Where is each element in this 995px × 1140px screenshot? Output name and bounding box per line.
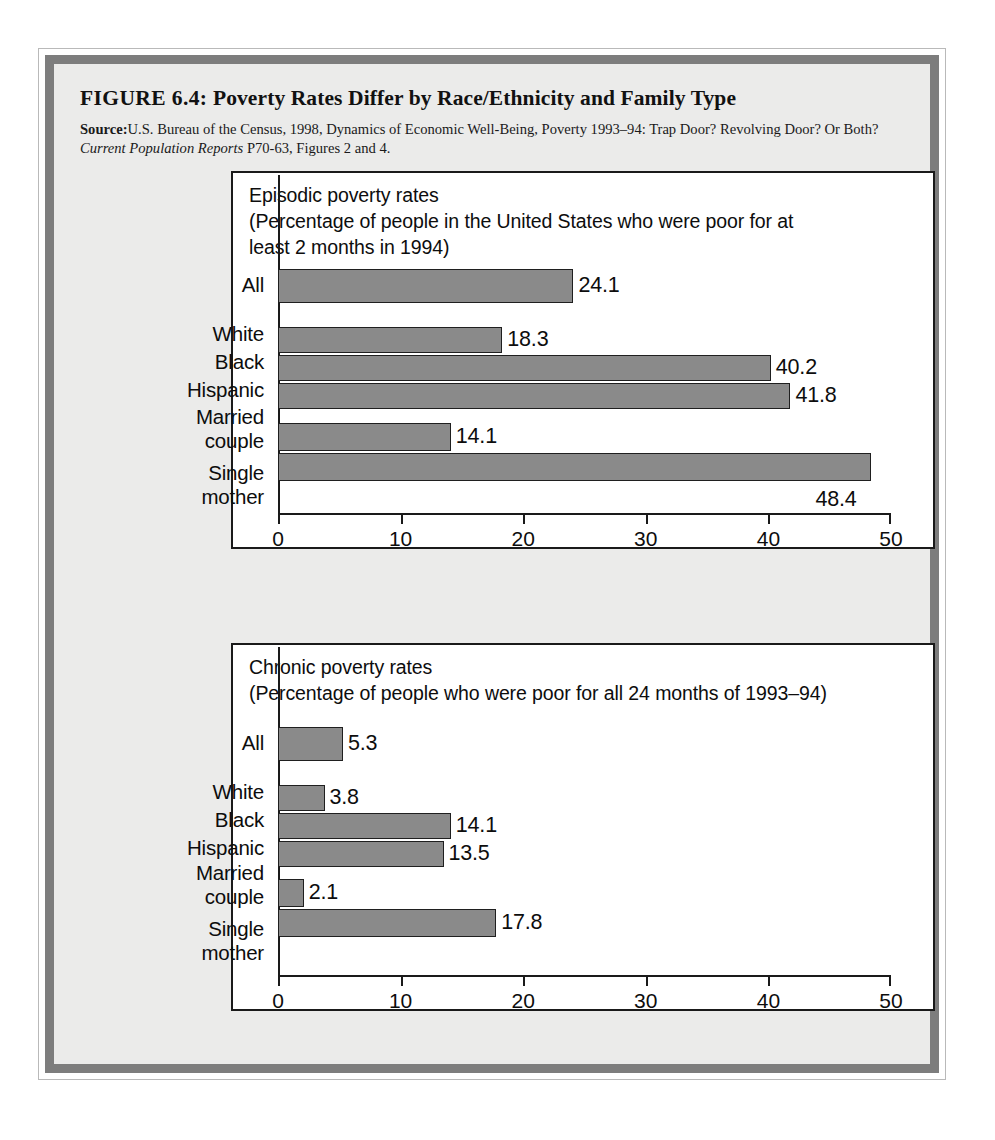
axis-tick [401, 515, 403, 524]
axis-tick-label: 50 [879, 527, 902, 551]
category-label: Hispanic [104, 378, 264, 402]
axis-tick-label: 40 [757, 527, 780, 551]
axis-tick-label: 0 [272, 989, 284, 1013]
bar-value-label: 13.5 [449, 841, 490, 866]
axis-tick [278, 515, 280, 524]
figure-number: FIGURE 6.4: [80, 86, 207, 110]
bar-value-label: 5.3 [348, 731, 377, 756]
source-label: Source: [80, 121, 128, 137]
bar [278, 909, 496, 937]
axis-tick [646, 977, 648, 986]
axis-tick [278, 977, 280, 986]
bar-value-label: 41.8 [795, 383, 836, 408]
category-label: All [104, 731, 264, 755]
bar-value-label: 17.8 [501, 910, 542, 935]
axis-tick [889, 515, 891, 524]
bar-value-label: 18.3 [507, 327, 548, 352]
axis-tick-label: 20 [512, 989, 535, 1013]
axis-tick [768, 977, 770, 986]
axis-tick-label: 0 [272, 527, 284, 551]
bar [278, 327, 502, 353]
bar [278, 355, 771, 381]
bar [278, 785, 325, 811]
plot-area-chronic: 010203040505.3All3.8White14.1Black13.5Hi… [233, 645, 933, 1009]
category-label: White [104, 780, 264, 804]
axis-tick [646, 515, 648, 524]
source-text-part2: P70-63, Figures 2 and 4. [243, 140, 390, 156]
axis-tick-label: 20 [512, 527, 535, 551]
figure-title-text: Poverty Rates Differ by Race/Ethnicity a… [213, 86, 736, 110]
bar [278, 423, 451, 451]
bar-value-label: 2.1 [309, 880, 338, 905]
chart-panel-episodic: Episodic poverty rates (Percentage of pe… [231, 171, 935, 549]
bar-value-label: 3.8 [330, 785, 359, 810]
category-label: White [104, 322, 264, 346]
category-label: All [104, 273, 264, 297]
axis-tick-label: 30 [634, 989, 657, 1013]
source-text-part1: U.S. Bureau of the Census, 1998, Dynamic… [128, 121, 879, 137]
bar [278, 269, 573, 303]
bar-value-label: 14.1 [456, 813, 497, 838]
axis-tick-label: 30 [634, 527, 657, 551]
value-axis [278, 975, 891, 977]
category-label: Black [104, 350, 264, 374]
bar-value-label: 48.4 [815, 487, 856, 512]
axis-tick [523, 515, 525, 524]
figure-source: Source:U.S. Bureau of the Census, 1998, … [80, 120, 904, 157]
bar [278, 879, 304, 907]
axis-tick-label: 10 [389, 989, 412, 1013]
bar [278, 813, 451, 839]
plot-area-episodic: 0102030405024.1All18.3White40.2Black41.8… [233, 173, 933, 547]
axis-tick-label: 40 [757, 989, 780, 1013]
figure-frame-border: FIGURE 6.4: Poverty Rates Differ by Race… [45, 55, 939, 1073]
bar-value-label: 14.1 [456, 424, 497, 449]
bar [278, 383, 790, 409]
figure-frame: FIGURE 6.4: Poverty Rates Differ by Race… [38, 48, 946, 1080]
figure-body: FIGURE 6.4: Poverty Rates Differ by Race… [54, 64, 930, 1064]
category-label: Single mother [104, 917, 264, 965]
bar-value-label: 40.2 [776, 355, 817, 380]
category-label: Single mother [104, 461, 264, 509]
axis-tick [401, 977, 403, 986]
axis-tick-label: 50 [879, 989, 902, 1013]
chart-panel-chronic: Chronic poverty rates (Percentage of peo… [231, 643, 935, 1011]
bar [278, 841, 444, 867]
axis-tick-label: 10 [389, 527, 412, 551]
category-label: Hispanic [104, 836, 264, 860]
figure-title: FIGURE 6.4: Poverty Rates Differ by Race… [80, 86, 904, 111]
axis-tick [523, 977, 525, 986]
axis-tick [768, 515, 770, 524]
value-axis [278, 513, 891, 515]
bar-value-label: 24.1 [578, 273, 619, 298]
category-label: Married couple [104, 405, 264, 453]
source-publication-title: Current Population Reports [80, 140, 243, 156]
bar [278, 453, 871, 481]
category-label: Married couple [104, 861, 264, 909]
category-label: Black [104, 808, 264, 832]
bar [278, 727, 343, 761]
axis-tick [889, 977, 891, 986]
